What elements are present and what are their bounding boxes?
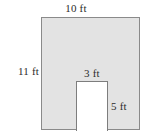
dimension-label-notch-height: 5 ft	[111, 100, 127, 113]
dimension-label-outer-width: 10 ft	[0, 2, 152, 15]
dimension-label-notch-width: 3 ft	[70, 67, 114, 80]
geometry-figure: 10 ft 11 ft 3 ft 5 ft	[0, 0, 152, 138]
inner-rectangle-notch	[76, 81, 108, 131]
dimension-label-outer-height: 11 ft	[6, 65, 39, 78]
